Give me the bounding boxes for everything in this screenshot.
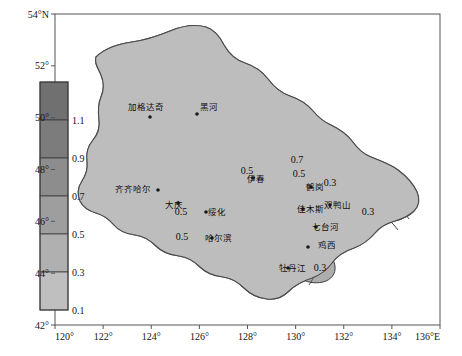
contour-value-label: 0.5 [293,168,306,179]
x-axis-tick-label: 126° [190,331,209,342]
x-axis-tick-label: 134° [382,331,401,342]
contour-value-label: 0.7 [291,154,304,165]
city-label: 绥化 [208,207,226,217]
city-marker [195,112,199,116]
colorbar-tick-label: 0.7 [72,191,85,202]
colorbar-tick-label: 0.5 [72,229,85,240]
city-label: 齐齐哈尔 [115,184,151,194]
map-figure: 加格达奇黑河齐齐哈尔大庆伊春绥化哈尔滨鹤岗佳木斯双鸭山七台河鸡西牡丹江 0.70… [0,0,462,356]
city-marker [156,188,160,192]
contour-value-label: 0.3 [362,206,375,217]
x-axis-tick-label: 132° [334,331,353,342]
y-axis-tick-label: 54°N [28,9,49,20]
city-label: 鸡西 [318,240,336,250]
colorbar-tick-label: 0.9 [72,153,85,164]
y-axis-tick-label: 44° [35,268,49,279]
city-label: 双鸭山 [324,200,351,210]
x-axis-tick-label: 136°E [415,331,440,342]
contour-value-label: 0.5 [175,206,188,217]
colorbar-tick-label: 1.1 [72,115,85,126]
city-label: 佳木斯 [297,204,324,214]
map-canvas: 加格达奇黑河齐齐哈尔大庆伊春绥化哈尔滨鹤岗佳木斯双鸭山七台河鸡西牡丹江 0.70… [0,0,462,356]
x-axis-tick-label: 128° [238,331,257,342]
colorbar-swatch [40,234,68,272]
x-axis-tick-label: 122° [94,331,113,342]
y-axis-tick-label: 46° [35,216,49,227]
city-label: 牡丹江 [279,263,306,273]
x-axis-tick-label: 130° [286,331,305,342]
contour-value-label: 0.3 [314,262,327,273]
city-label: 哈尔滨 [205,233,232,243]
y-axis-tick-label: 50° [35,112,49,123]
city-marker [306,245,310,249]
colorbar-tick-label: 0.1 [72,305,85,316]
city-label: 七台河 [312,222,339,232]
colorbar-swatch [40,120,68,158]
city-label: 加格达奇 [128,102,164,112]
contour-value-label: 0.3 [324,177,337,188]
contour-value-label: 0.5 [241,165,254,176]
city-label: 鹤岗 [306,182,324,192]
x-axis-tick-label: 124° [142,331,161,342]
city-label: 黑河 [200,102,218,112]
colorbar-tick-label: 0.3 [72,267,85,278]
contour-value-label: 0.5 [176,231,189,242]
y-axis-tick-label: 52° [35,60,49,71]
x-axis-tick-label: 120° [55,331,74,342]
city-marker [148,115,152,119]
y-axis-tick-label: 42° [35,320,49,331]
y-axis-tick-label: 48° [35,164,49,175]
